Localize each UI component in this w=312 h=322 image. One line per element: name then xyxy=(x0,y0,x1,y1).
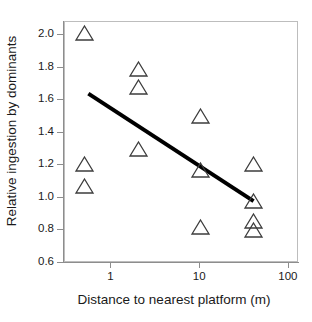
y-axis-tick xyxy=(57,197,63,198)
y-axis-tick xyxy=(57,99,63,100)
scatter-plot-figure: Relative ingestion by dominants 0.60.81.… xyxy=(0,0,312,322)
data-point-marker xyxy=(129,79,148,95)
x-axis-tick-label: 1 xyxy=(90,271,130,283)
y-axis-tick-label: 1.2 xyxy=(14,158,54,170)
trendline xyxy=(65,22,299,263)
y-axis-tick xyxy=(57,262,63,263)
data-point-marker xyxy=(75,178,94,194)
y-axis-tick xyxy=(57,34,63,35)
y-axis-tick xyxy=(57,67,63,68)
y-axis-tick-label: 2.0 xyxy=(14,28,54,40)
y-axis-tick-label: 0.6 xyxy=(14,256,54,268)
y-axis-tick-label: 1.6 xyxy=(14,93,54,105)
data-point-marker xyxy=(75,25,94,41)
y-axis-tick-label: 0.8 xyxy=(14,223,54,235)
data-point-marker xyxy=(75,156,94,172)
y-axis-tick-label: 1.4 xyxy=(14,126,54,138)
y-axis-tick xyxy=(57,132,63,133)
data-point-marker xyxy=(244,222,263,238)
data-point-marker xyxy=(244,193,263,209)
data-point-marker xyxy=(129,61,148,77)
data-point-marker xyxy=(191,108,210,124)
y-axis-tick-label: 1.8 xyxy=(14,61,54,73)
data-point-marker xyxy=(244,156,263,172)
y-axis-tick xyxy=(57,164,63,165)
x-axis-tick-label: 100 xyxy=(268,271,308,283)
x-axis-title: Distance to nearest platform (m) xyxy=(40,292,308,307)
data-point-marker xyxy=(129,141,148,157)
plot-area xyxy=(64,21,298,262)
data-point-marker xyxy=(191,162,210,178)
y-axis-tick-label: 1.0 xyxy=(14,191,54,203)
x-axis-tick-label: 10 xyxy=(179,271,219,283)
y-axis-tick xyxy=(57,229,63,230)
data-point-marker xyxy=(191,219,210,235)
